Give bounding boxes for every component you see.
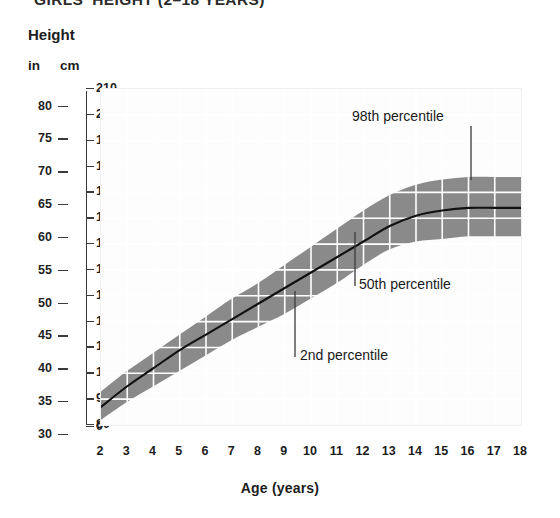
x-tick-17: 17 (487, 444, 501, 458)
y-tick-mark-cm-210 (86, 88, 94, 89)
y-tick-mark-in-55 (58, 270, 68, 271)
growth-chart-figure: GIRLS' HEIGHT (2–18 YEARS) Height in cm … (0, 0, 560, 518)
x-tick-7: 7 (228, 444, 235, 458)
y-tick-in-30: 30 (26, 428, 52, 441)
y-tick-in-40: 40 (26, 362, 52, 375)
y-tick-mark-in-40 (58, 368, 68, 369)
y-axis-unit-inches: in (28, 58, 40, 73)
y-axis-spine (86, 91, 87, 425)
y-tick-mark-in-35 (58, 401, 68, 402)
x-tick-3: 3 (123, 444, 130, 458)
annotation-50th-percentile: 50th percentile (359, 276, 451, 292)
y-tick-mark-cm-0 (86, 426, 94, 427)
y-tick-mark-in-70 (58, 171, 68, 172)
y-tick-mark-cm-100 (86, 372, 94, 373)
y-tick-mark-cm-160 (86, 217, 94, 218)
x-axis-title: Age (years) (0, 480, 560, 496)
x-tick-8: 8 (254, 444, 261, 458)
y-tick-mark-cm-110 (86, 346, 94, 347)
x-tick-5: 5 (175, 444, 182, 458)
y-tick-mark-in-75 (58, 138, 68, 139)
y-tick-mark-cm-90 (86, 398, 94, 399)
y-tick-in-55: 55 (26, 264, 52, 277)
y-tick-in-70: 70 (26, 165, 52, 178)
chart-svg (101, 89, 521, 425)
y-tick-in-35: 35 (26, 395, 52, 408)
x-tick-9: 9 (280, 444, 287, 458)
y-tick-mark-in-80 (58, 106, 68, 107)
annotation-98th-percentile: 98th percentile (352, 108, 444, 124)
x-tick-18: 18 (513, 444, 527, 458)
y-tick-mark-cm-150 (86, 243, 94, 244)
x-tick-15: 15 (434, 444, 448, 458)
y-tick-in-65: 65 (26, 198, 52, 211)
y-axis-unit-centimeters: cm (60, 58, 80, 73)
y-tick-mark-cm-140 (86, 269, 94, 270)
x-tick-2: 2 (97, 444, 104, 458)
y-tick-in-60: 60 (26, 231, 52, 244)
x-tick-14: 14 (408, 444, 422, 458)
x-tick-10: 10 (303, 444, 317, 458)
y-tick-in-80: 80 (26, 100, 52, 113)
x-tick-13: 13 (382, 444, 396, 458)
y-tick-in-50: 50 (26, 297, 52, 310)
plot-area (100, 88, 522, 426)
x-tick-11: 11 (330, 444, 343, 458)
y-tick-mark-cm-180 (86, 166, 94, 167)
y-tick-mark-in-60 (58, 237, 68, 238)
y-tick-mark-cm-130 (86, 295, 94, 296)
y-tick-mark-cm-190 (86, 140, 94, 141)
chart-title: GIRLS' HEIGHT (2–18 YEARS) (34, 0, 265, 9)
y-tick-mark-in-50 (58, 303, 68, 304)
y-tick-mark-in-30 (58, 434, 68, 435)
x-tick-4: 4 (149, 444, 156, 458)
y-axis-heading: Height (28, 26, 75, 43)
y-tick-in-45: 45 (26, 329, 52, 342)
x-tick-6: 6 (202, 444, 209, 458)
y-tick-mark-in-45 (58, 335, 68, 336)
y-tick-in-75: 75 (26, 132, 52, 145)
annotation-2nd-percentile: 2nd percentile (300, 347, 388, 363)
y-tick-mark-cm-200 (86, 114, 94, 115)
x-tick-12: 12 (356, 444, 370, 458)
x-tick-16: 16 (461, 444, 475, 458)
y-tick-mark-cm-120 (86, 321, 94, 322)
y-tick-mark-in-65 (58, 204, 68, 205)
y-tick-mark-cm-170 (86, 191, 94, 192)
